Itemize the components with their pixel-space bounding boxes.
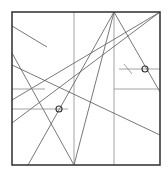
corner-to-left-upper-line: [12, 12, 160, 100]
construction-diagram: [0, 0, 167, 178]
apex-to-right-edge-line: [114, 12, 160, 92]
apex-to-bottom-left-line: [28, 12, 114, 165]
construction-lines: [12, 12, 160, 165]
apex-to-bottom-mid-line: [74, 12, 114, 165]
corner-to-left-lower-line: [12, 12, 160, 123]
square-frame: [12, 12, 160, 165]
long-descending-line: [12, 65, 160, 135]
short-diagonal-top-left-line: [12, 26, 47, 47]
